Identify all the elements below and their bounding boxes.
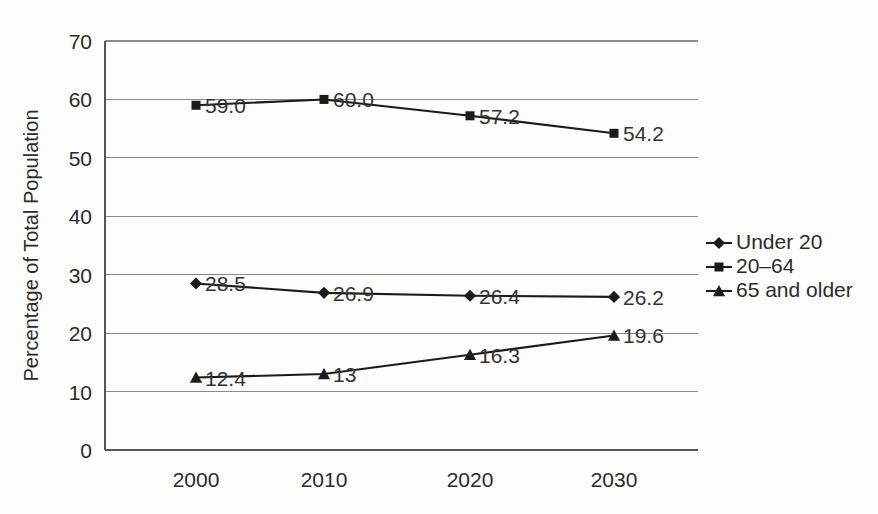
data-label: 26.9 bbox=[333, 282, 374, 305]
legend: Under 2020–6465 and older bbox=[706, 230, 853, 301]
chart-page: 010203040506070Percentage of Total Popul… bbox=[0, 0, 878, 514]
legend-label: Under 20 bbox=[736, 230, 822, 253]
data-label: 13 bbox=[333, 363, 356, 386]
y-tick-label: 0 bbox=[80, 439, 92, 462]
marker-diamond bbox=[464, 290, 476, 302]
data-label: 19.6 bbox=[623, 324, 664, 347]
data-label: 54.2 bbox=[623, 122, 664, 145]
series-line bbox=[196, 283, 614, 296]
legend-item-65-and-older[interactable]: 65 and older bbox=[706, 278, 853, 301]
series-group: 28.526.926.426.259.060.057.254.212.41316… bbox=[190, 88, 664, 389]
data-label: 26.2 bbox=[623, 286, 664, 309]
y-axis-title: Percentage of Total Population bbox=[20, 109, 42, 381]
marker-square bbox=[610, 129, 619, 138]
x-tick-label: 2010 bbox=[301, 468, 348, 491]
marker-square bbox=[192, 101, 201, 110]
marker-square bbox=[466, 111, 475, 120]
x-tick-label: 2000 bbox=[173, 468, 220, 491]
legend-item-under-20[interactable]: Under 20 bbox=[706, 230, 822, 253]
data-label: 12.4 bbox=[205, 367, 246, 390]
legend-item-20-64[interactable]: 20–64 bbox=[706, 254, 795, 277]
data-label: 60.0 bbox=[333, 88, 374, 111]
marker-diamond bbox=[190, 277, 202, 289]
y-tick-label: 10 bbox=[69, 381, 92, 404]
x-tick-label: 2020 bbox=[447, 468, 494, 491]
legend-label: 65 and older bbox=[736, 278, 853, 301]
data-label: 28.5 bbox=[205, 272, 246, 295]
y-tick-label: 60 bbox=[69, 88, 92, 111]
marker-square bbox=[320, 95, 329, 104]
y-axis-ticks: 010203040506070 bbox=[69, 30, 92, 462]
y-tick-label: 40 bbox=[69, 205, 92, 228]
data-label: 16.3 bbox=[479, 344, 520, 367]
marker-diamond bbox=[318, 287, 330, 299]
series-line bbox=[196, 99, 614, 133]
series-line bbox=[196, 335, 614, 377]
data-label: 57.2 bbox=[479, 105, 520, 128]
marker-diamond bbox=[713, 237, 725, 249]
line-chart: 010203040506070Percentage of Total Popul… bbox=[0, 0, 878, 514]
data-label: 26.4 bbox=[479, 285, 520, 308]
series-under-20: 28.526.926.426.2 bbox=[190, 272, 664, 308]
y-tick-label: 70 bbox=[69, 30, 92, 53]
data-label: 59.0 bbox=[205, 94, 246, 117]
x-tick-label: 2030 bbox=[591, 468, 638, 491]
series-65-and-older: 12.41316.319.6 bbox=[190, 324, 664, 389]
series-20-64: 59.060.057.254.2 bbox=[192, 88, 664, 145]
legend-label: 20–64 bbox=[736, 254, 795, 277]
y-tick-label: 20 bbox=[69, 322, 92, 345]
marker-diamond bbox=[608, 291, 620, 303]
y-tick-label: 50 bbox=[69, 147, 92, 170]
marker-square bbox=[715, 263, 724, 272]
y-tick-label: 30 bbox=[69, 264, 92, 287]
x-axis-ticks: 2000201020202030 bbox=[173, 468, 638, 491]
